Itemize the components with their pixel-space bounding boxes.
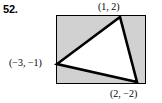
- vertex-label-left: (−3, −1): [9, 57, 42, 68]
- geometry-figure: [0, 0, 162, 103]
- figure-screenshot: 52. (1, 2) (−3, −1) (2, −2): [0, 0, 162, 103]
- vertex-label-bottom-right: (2, −2): [110, 88, 137, 99]
- vertex-label-top: (1, 2): [98, 1, 120, 12]
